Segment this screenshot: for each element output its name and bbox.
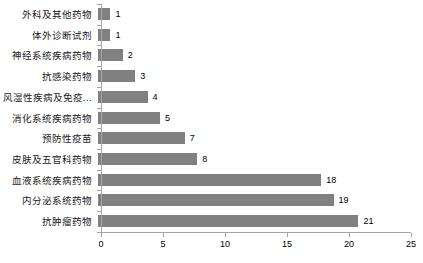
bar-row: 抗感染药物3 (0, 66, 423, 87)
plot-area: 外科及其他药物1体外诊断试剂1神经系统疾病药物2抗感染药物3风湿性疾病及免疫…4… (0, 0, 423, 232)
bar-value-label: 1 (115, 8, 120, 20)
x-axis-tick (163, 233, 164, 237)
x-axis-tick-label: 5 (160, 239, 165, 249)
category-label: 消化系统疾病药物 (0, 113, 96, 124)
bar (98, 215, 358, 227)
x-axis-tick-label: 10 (220, 239, 230, 249)
y-axis-tick (97, 87, 101, 88)
bar-row: 消化系统疾病药物5 (0, 108, 423, 129)
bar-track: 1 (96, 4, 423, 25)
bar-track: 19 (96, 190, 423, 211)
bar-chart: 外科及其他药物1体外诊断试剂1神经系统疾病药物2抗感染药物3风湿性疾病及免疫…4… (0, 0, 423, 263)
category-label: 风湿性疾病及免疫… (0, 92, 96, 103)
x-axis-tick-label: 15 (282, 239, 292, 249)
bar-value-label: 2 (128, 49, 133, 61)
y-axis-tick (97, 25, 101, 26)
y-axis-tick (97, 149, 101, 150)
bar-track: 5 (96, 108, 423, 129)
category-label: 抗肿瘤药物 (0, 216, 96, 227)
bar-track: 4 (96, 87, 423, 108)
bar-value-label: 1 (115, 29, 120, 41)
bar-value-label: 18 (326, 174, 336, 186)
y-axis-tick (97, 45, 101, 46)
x-axis-tick (287, 233, 288, 237)
y-axis-tick (97, 108, 101, 109)
bar (98, 91, 148, 103)
y-axis-tick (97, 170, 101, 171)
bar-row: 外科及其他药物1 (0, 4, 423, 25)
category-label: 神经系统疾病药物 (0, 50, 96, 61)
bar-track: 18 (96, 170, 423, 191)
x-axis-tick-label: 0 (98, 239, 103, 249)
bar-row: 血液系统疾病药物18 (0, 170, 423, 191)
bar (98, 112, 160, 124)
y-axis-line (101, 4, 102, 232)
x-axis-tick (225, 233, 226, 237)
y-axis-tick (97, 190, 101, 191)
x-axis-tick-label: 20 (344, 239, 354, 249)
category-label: 内分泌系统药物 (0, 195, 96, 206)
bar-value-label: 7 (190, 132, 195, 144)
bar-row: 皮肤及五官科药物8 (0, 149, 423, 170)
bar-track: 7 (96, 128, 423, 149)
bar-track: 1 (96, 25, 423, 46)
bar (98, 70, 135, 82)
y-axis-tick (97, 4, 101, 5)
bar-value-label: 8 (202, 153, 207, 165)
bar-track: 3 (96, 66, 423, 87)
bar-row: 体外诊断试剂1 (0, 25, 423, 46)
bar-value-label: 5 (165, 112, 170, 124)
y-axis-tick (97, 232, 101, 233)
y-axis-tick (97, 128, 101, 129)
bar-value-label: 3 (140, 70, 145, 82)
bar-row: 抗肿瘤药物21 (0, 211, 423, 232)
bar-value-label: 4 (153, 91, 158, 103)
x-axis-tick (349, 233, 350, 237)
bar (98, 153, 197, 165)
y-axis-tick (97, 211, 101, 212)
x-axis-tick-label: 25 (406, 239, 416, 249)
x-axis-tick (411, 233, 412, 237)
category-label: 外科及其他药物 (0, 9, 96, 20)
bar (98, 132, 185, 144)
category-label: 皮肤及五官科药物 (0, 154, 96, 165)
bar-track: 21 (96, 211, 423, 232)
bar-track: 2 (96, 45, 423, 66)
category-label: 预防性疫苗 (0, 133, 96, 144)
bar (98, 8, 110, 20)
bar-value-label: 19 (339, 194, 349, 206)
bar-row: 神经系统疾病药物2 (0, 45, 423, 66)
category-label: 体外诊断试剂 (0, 30, 96, 41)
bar (98, 29, 110, 41)
bar (98, 194, 334, 206)
x-axis-line (101, 232, 411, 233)
category-label: 抗感染药物 (0, 71, 96, 82)
bar (98, 174, 321, 186)
bar-track: 8 (96, 149, 423, 170)
bar-row: 内分泌系统药物19 (0, 190, 423, 211)
x-axis-tick (101, 233, 102, 237)
bar-value-label: 21 (363, 215, 373, 227)
y-axis-tick (97, 66, 101, 67)
category-label: 血液系统疾病药物 (0, 175, 96, 186)
bar-row: 预防性疫苗7 (0, 128, 423, 149)
bar-row: 风湿性疾病及免疫…4 (0, 87, 423, 108)
